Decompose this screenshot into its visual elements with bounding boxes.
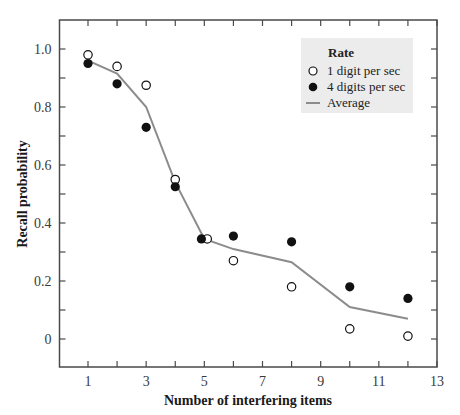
data-point-4-digits: [142, 123, 151, 132]
x-tick-label: 11: [372, 374, 385, 389]
data-point-4-digits: [197, 234, 206, 243]
legend: Rate 1 digit per sec 4 digits per sec Av…: [301, 38, 413, 113]
legend-item-1-digit: 1 digit per sec: [327, 63, 401, 78]
data-point-1-digit: [84, 51, 92, 59]
x-tick-label: 13: [430, 374, 444, 389]
legend-title: Rate: [328, 45, 354, 60]
data-point-4-digits: [112, 79, 121, 88]
legend-item-4-digits: 4 digits per sec: [327, 79, 406, 94]
x-tick-label: 1: [85, 374, 92, 389]
data-point-4-digits: [287, 237, 296, 246]
y-tick-label: 0: [45, 332, 52, 347]
x-tick-label: 3: [143, 374, 150, 389]
y-tick-label: 0.4: [34, 216, 52, 231]
x-tick-label: 9: [317, 374, 324, 389]
data-point-4-digits: [345, 282, 354, 291]
y-tick-label: 1.0: [34, 42, 52, 57]
data-point-1-digit: [287, 283, 295, 291]
data-point-4-digits: [229, 231, 238, 240]
data-point-1-digit: [113, 62, 121, 70]
data-point-1-digit: [404, 332, 412, 340]
open-circle-icon: [309, 67, 317, 75]
recall-probability-chart: 135791113 00.20.40.60.81.0 Number of int…: [0, 0, 460, 415]
data-point-4-digits: [403, 294, 412, 303]
x-tick-label: 5: [201, 374, 208, 389]
x-axis-title: Number of interfering items: [164, 393, 333, 408]
y-tick-label: 0.2: [34, 274, 52, 289]
y-axis-title: Recall probability: [15, 140, 30, 247]
data-point-4-digits: [83, 59, 92, 68]
y-tick-label: 0.8: [34, 100, 52, 115]
x-tick-label: 7: [259, 374, 266, 389]
filled-circle-icon: [309, 83, 318, 92]
y-tick-label: 0.6: [34, 158, 52, 173]
data-point-1-digit: [346, 325, 354, 333]
data-point-4-digits: [171, 182, 180, 191]
legend-item-average: Average: [327, 95, 370, 110]
data-point-1-digit: [229, 257, 237, 265]
data-point-1-digit: [142, 81, 150, 89]
